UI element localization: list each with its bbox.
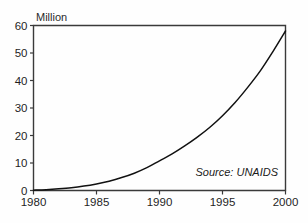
x-tick-label: 1990 [147, 196, 173, 208]
y-tick-label: 60 [15, 20, 28, 32]
chart-container: Million 0102030405060 198019851990199520… [0, 0, 308, 223]
x-tick-label: 2000 [273, 196, 299, 208]
line-chart: Million 0102030405060 198019851990199520… [0, 0, 308, 223]
x-tick-label: 1995 [210, 196, 236, 208]
y-tick-label: 10 [15, 157, 28, 169]
y-tick-label: 40 [15, 75, 28, 87]
x-tick-label: 1980 [21, 196, 47, 208]
y-tick-label: 30 [15, 102, 28, 114]
x-tick-label: 1985 [84, 196, 110, 208]
y-tick-label: 50 [15, 47, 28, 59]
source-annotation: Source: UNAIDS [195, 166, 278, 178]
y-axis-unit-label: Million [36, 11, 67, 23]
y-tick-label: 20 [15, 130, 28, 142]
